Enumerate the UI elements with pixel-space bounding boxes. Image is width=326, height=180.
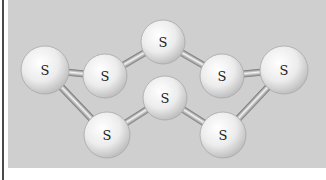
atom-label: S: [103, 128, 112, 143]
sulfur-atom: S: [260, 46, 308, 94]
sulfur-atom: S: [143, 76, 187, 120]
sulfur-atom: S: [84, 112, 130, 158]
atom-label: S: [280, 63, 289, 78]
sulfur-atom: S: [83, 54, 127, 98]
sulfur-atom: S: [21, 46, 69, 94]
molecule-diagram: SSSSSSSS: [0, 0, 326, 180]
atom-label: S: [101, 69, 110, 84]
atom-label: S: [219, 128, 228, 143]
atom-label: S: [218, 69, 227, 84]
sulfur-atom: S: [200, 112, 246, 158]
atom-label: S: [161, 91, 170, 106]
sulfur-atom: S: [141, 20, 185, 64]
atom-label: S: [159, 35, 168, 50]
atom-label: S: [41, 63, 50, 78]
sulfur-atom: S: [200, 54, 244, 98]
